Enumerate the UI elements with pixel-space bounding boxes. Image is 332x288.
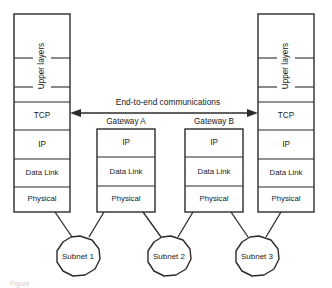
gateway-b-layer-physical[interactable]: Physical: [199, 194, 228, 203]
right-host-stack[interactable]: Upper layers TCP IP Data Link Physical: [258, 14, 314, 212]
subnet-2-label: Subnet 2: [153, 252, 186, 261]
connector-left-host-to-subnet1: [55, 212, 72, 237]
end-to-end-arrow-head-right: [247, 109, 258, 117]
gateway-a-layer-ip-label: IP: [122, 138, 130, 147]
gateway-b-layer-physical-label: Physical: [199, 194, 228, 203]
subnet-3-label: Subnet 3: [241, 252, 274, 261]
gateway-b-layer-data-link[interactable]: Data Link: [198, 167, 231, 176]
diagram-canvas: Upper layers TCP IP Data Link Physical: [0, 0, 332, 288]
gateway-a-layer-data-link-label: Data Link: [110, 167, 143, 176]
left-host-layer-tcp-label: TCP: [34, 111, 51, 120]
left-host-layer-tcp[interactable]: TCP: [34, 111, 51, 120]
connector-lines: [55, 212, 281, 237]
right-host-layer-tcp[interactable]: TCP: [278, 111, 295, 120]
right-host-layer-physical[interactable]: Physical: [271, 194, 300, 203]
subnet-1-group[interactable]: Subnet 1: [57, 236, 100, 276]
right-host-upper-layers-label: Upper layers: [281, 43, 290, 89]
left-host-stack[interactable]: Upper layers TCP IP Data Link Physical: [14, 14, 70, 212]
gateway-a-layer-data-link[interactable]: Data Link: [110, 167, 143, 176]
gateway-a-layer-physical-label: Physical: [111, 194, 140, 203]
right-host-layer-physical-label: Physical: [271, 194, 300, 203]
right-host-layer-ip[interactable]: IP: [282, 140, 290, 149]
left-host-layer-ip[interactable]: IP: [38, 140, 46, 149]
connector-gateway-b-to-subnet3: [231, 212, 248, 237]
right-host-layer-data-link[interactable]: Data Link: [270, 168, 303, 177]
subnet-3-group[interactable]: Subnet 3: [236, 236, 279, 276]
left-host-upper-layers-label: Upper layers: [37, 43, 46, 89]
gateway-b-group[interactable]: Gateway B IP Data Link Physical: [185, 117, 243, 212]
end-to-end-arrow[interactable]: End-to-end communications: [70, 97, 258, 117]
gateway-b-layer-data-link-label: Data Link: [198, 167, 231, 176]
left-host-layer-ip-label: IP: [38, 140, 46, 149]
left-host-layer-physical-label: Physical: [27, 194, 56, 203]
gateway-b-layer-ip-label: IP: [210, 138, 218, 147]
gateway-a-layer-physical[interactable]: Physical: [111, 194, 140, 203]
end-to-end-arrow-label: End-to-end communications: [116, 97, 220, 107]
right-host-layer-tcp-label: TCP: [278, 111, 295, 120]
subnet-1-label: Subnet 1: [62, 252, 95, 261]
connector-gateway-a-to-subnet1: [89, 212, 104, 237]
left-host-layer-physical[interactable]: Physical: [27, 194, 56, 203]
gateway-a-title: Gateway A: [106, 117, 146, 126]
left-host-layer-data-link-label: Data Link: [26, 168, 59, 177]
gateway-b-layer-ip[interactable]: IP: [210, 138, 218, 147]
network-layer-diagram: Upper layers TCP IP Data Link Physical: [0, 0, 332, 288]
connector-right-host-to-subnet3: [266, 212, 281, 237]
end-to-end-arrow-head-left: [70, 109, 81, 117]
subnet-2-group[interactable]: Subnet 2: [148, 236, 191, 276]
gateway-b-title: Gateway B: [194, 117, 235, 126]
gateway-a-layer-ip[interactable]: IP: [122, 138, 130, 147]
right-host-layer-ip-label: IP: [282, 140, 290, 149]
connector-gateway-a-to-subnet2: [143, 212, 161, 237]
gateway-a-group[interactable]: Gateway A IP Data Link Physical: [97, 117, 155, 212]
left-host-layer-data-link[interactable]: Data Link: [26, 168, 59, 177]
right-host-layer-data-link-label: Data Link: [270, 168, 303, 177]
figure-caption: Figure: [10, 280, 322, 288]
connector-gateway-b-to-subnet2: [178, 212, 193, 237]
